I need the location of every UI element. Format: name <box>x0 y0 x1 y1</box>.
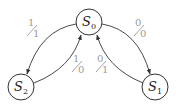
state-s1-letter: S <box>148 79 157 94</box>
label-s0-s2-output: 1 <box>33 28 39 39</box>
state-s1-subscript: 1 <box>157 87 162 96</box>
state-s2: S 2 <box>8 74 34 100</box>
label-s2-to-s0: 1 0 <box>72 53 84 75</box>
state-s1: S 1 <box>142 74 168 100</box>
label-s0-to-s2: 1 1 <box>27 17 39 39</box>
label-s1-s0-input: 0 <box>97 53 103 64</box>
label-s0-s1-output: 0 <box>140 28 146 39</box>
label-s0-to-s1: 0 0 <box>134 17 146 39</box>
state-s0-letter: S <box>82 14 91 29</box>
label-s2-s0-input: 1 <box>73 53 79 64</box>
label-s1-s0-output: 1 <box>102 64 108 75</box>
label-s0-s1-input: 0 <box>135 17 141 28</box>
state-diagram: S 0 S 1 S 2 1 1 1 0 0 0 0 1 <box>0 0 176 107</box>
state-s2-subscript: 2 <box>23 87 28 96</box>
state-s0-subscript: 0 <box>91 22 96 31</box>
edge-s1-to-s0 <box>97 35 143 83</box>
state-s2-letter: S <box>14 79 23 94</box>
label-s0-s2-input: 1 <box>28 17 34 28</box>
state-s0: S 0 <box>76 9 102 35</box>
label-s2-s0-output: 0 <box>78 64 84 75</box>
